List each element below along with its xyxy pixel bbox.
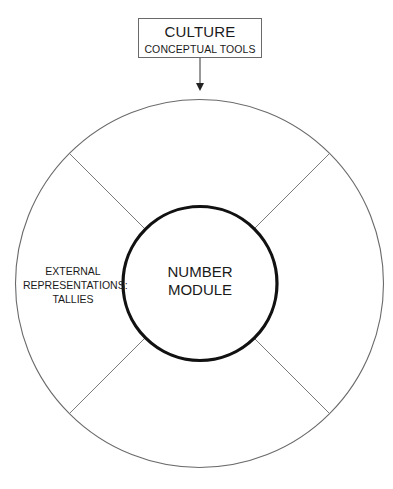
arrowhead-icon [196,83,204,91]
divider-lower-right [254,338,330,414]
divider-upper-right [254,153,330,229]
culture-box: CULTURE CONCEPTUAL TOOLS [138,18,262,58]
number-module-line2: MODULE [150,281,250,299]
number-module-label: NUMBER MODULE [150,263,250,299]
divider-lower-left [69,338,145,414]
culture-subtitle: CONCEPTUAL TOOLS [139,43,261,55]
external-representations-label: EXTERNAL REPRESENTATIONS: TALLIES [23,264,123,306]
divider-upper-left [69,153,145,229]
external-line3: TALLIES [23,292,123,306]
diagram-canvas [0,0,393,489]
external-line2: REPRESENTATIONS: [23,278,123,292]
external-line1: EXTERNAL [23,264,123,278]
number-module-line1: NUMBER [150,263,250,281]
culture-title: CULTURE [139,23,261,40]
